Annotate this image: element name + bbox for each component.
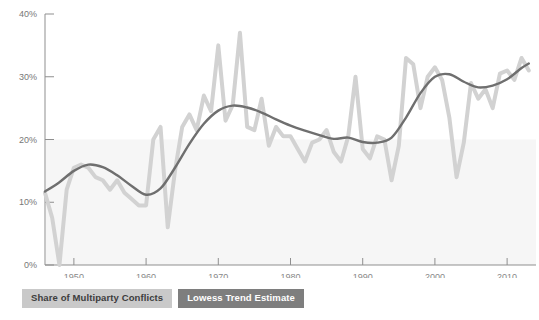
legend-item-share-of-multiparty-conflicts[interactable]: Share of Multiparty Conflicts [22, 289, 172, 308]
x-tick-label: 1960 [136, 272, 156, 278]
x-tick-label: 2000 [425, 272, 445, 278]
y-tick-label: 20% [19, 135, 37, 145]
y-tick-label: 10% [19, 197, 37, 207]
plot-area: 0%10%20%30%40%19501960197019801990200020… [0, 0, 539, 278]
x-tick-label: 1990 [353, 272, 373, 278]
x-tick-label: 2010 [497, 272, 517, 278]
y-tick-label: 0% [24, 260, 37, 270]
line-chart: 0%10%20%30%40%19501960197019801990200020… [0, 0, 539, 278]
legend-item-lowess-trend-estimate[interactable]: Lowess Trend Estimate [178, 289, 304, 308]
y-tick-label: 30% [19, 72, 37, 82]
chart-legend: Share of Multiparty Conflicts Lowess Tre… [22, 289, 304, 308]
x-tick-label: 1950 [64, 272, 84, 278]
x-tick-label: 1970 [208, 272, 228, 278]
chart-container: 0%10%20%30%40%19501960197019801990200020… [0, 0, 539, 320]
y-tick-label: 40% [19, 9, 37, 19]
x-tick-label: 1980 [280, 272, 300, 278]
